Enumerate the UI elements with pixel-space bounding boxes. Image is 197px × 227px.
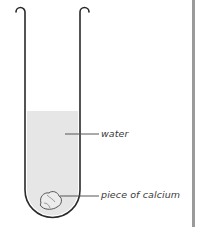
right-border-divider bbox=[192, 0, 195, 227]
calcium-label: piece of calcium bbox=[101, 189, 180, 200]
calcium-piece bbox=[40, 192, 61, 210]
test-tube-diagram: water piece of calcium bbox=[0, 0, 197, 227]
water-label: water bbox=[101, 128, 129, 139]
